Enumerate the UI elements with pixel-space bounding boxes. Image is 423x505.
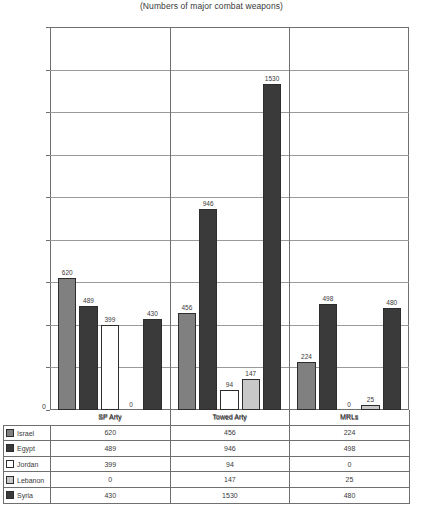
table-cell: 399 [51,456,171,472]
table-cell: 224 [290,425,410,441]
y-axis-tick-mark [46,240,50,241]
y-axis-tick-mark [46,70,50,71]
bar-group: 224498025480 [289,27,409,410]
table-cell: 489 [51,441,171,457]
bar-value-label: 480 [386,299,397,306]
legend-label: Israel [17,430,34,437]
bar-value-label: 0 [129,401,133,408]
bar-value-label: 498 [322,295,333,302]
plot-area: 6204893990430456946941471530224498025480… [50,27,409,410]
table-cell: 498 [290,441,410,457]
bar-value-label: 147 [245,370,256,377]
bar [143,319,161,410]
table-cell: 946 [170,441,290,457]
bar [101,325,119,410]
table-cell: 620 [51,425,171,441]
bar [199,209,217,410]
legend-entry: Syria [4,487,51,503]
bar [263,84,281,410]
bar [220,390,238,410]
table-cell: 94 [170,456,290,472]
legend-entry: Egypt [4,441,51,457]
table-cell: 25 [290,472,410,488]
bar-group: 456946941471530 [170,27,290,410]
table-cell: 0 [51,472,171,488]
table-cell: 456 [170,425,290,441]
bar [178,313,196,410]
table-header-corner [4,410,51,425]
bar-value-label: 456 [181,304,192,311]
bar [242,379,260,410]
table-cell: 0 [290,456,410,472]
legend-swatch-icon [6,444,14,452]
bar-value-label: 946 [203,200,214,207]
table-row: Syria4301530480 [4,487,410,503]
table-row: Jordan399940 [4,456,410,472]
legend-swatch-icon [6,491,14,499]
table-header-row: SP ArtyTowed ArtyMRLs [4,410,410,425]
table-cell: 430 [51,487,171,503]
legend-swatch-icon [6,476,14,484]
bar-value-label: 620 [62,269,73,276]
legend-entry: Lebanon [4,472,51,488]
y-axis-tick-mark [46,112,50,113]
y-axis-tick-mark [46,155,50,156]
bar [319,304,337,410]
table-row: Israel620456224 [4,425,410,441]
chart-title: (Numbers of major combat weapons) [0,1,423,11]
table-cell: 147 [170,472,290,488]
y-axis-tick-mark [46,282,50,283]
table-cell: 1530 [170,487,290,503]
table-header-cell: Towed Arty [170,410,290,425]
table-cell: 480 [290,487,410,503]
y-axis-tick-mark [46,27,50,28]
table-row: Egypt489946498 [4,441,410,457]
legend-entry: Israel [4,425,51,441]
table-row: Lebanon014725 [4,472,410,488]
chart-page: (Numbers of major combat weapons) 620489… [0,0,423,505]
bar-value-label: 430 [147,310,158,317]
y-axis-tick-mark [46,367,50,368]
legend-label: Lebanon [17,477,44,484]
bar-value-label: 25 [367,396,374,403]
table-header-cell: SP Arty [51,410,171,425]
bar-value-label: 224 [301,353,312,360]
y-axis-tick-mark [46,325,50,326]
legend-entry: Jordan [4,456,51,472]
legend-swatch-icon [6,460,14,468]
bar-value-label: 94 [226,381,233,388]
bar [58,278,76,410]
legend-label: Jordan [17,461,38,468]
table-header-cell: MRLs [290,410,410,425]
data-table: SP ArtyTowed ArtyMRLsIsrael620456224Egyp… [3,410,410,504]
bar-value-label: 399 [104,316,115,323]
bar-value-label: 489 [83,297,94,304]
bar-group: 6204893990430 [50,27,170,410]
y-axis-zero-label: 0 [10,403,46,410]
legend-label: Egypt [17,445,35,452]
bar-value-label: 0 [347,401,351,408]
legend-swatch-icon [6,429,14,437]
bar-value-label: 1530 [265,75,279,82]
bar [79,306,97,410]
y-axis-tick-mark [46,197,50,198]
legend-label: Syria [17,492,33,499]
bar [383,308,401,410]
bar [297,362,315,410]
bars-layer: 6204893990430456946941471530224498025480 [50,27,409,410]
